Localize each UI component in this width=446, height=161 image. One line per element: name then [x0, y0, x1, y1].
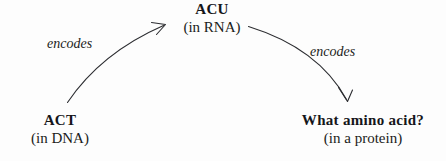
edge-label-acu-to-protein: encodes: [310, 44, 355, 60]
arrow-acu-to-protein-head: [339, 88, 353, 102]
node-act-subtitle: (in DNA): [0, 131, 131, 146]
node-protein-title: What amino acid?: [281, 113, 445, 128]
arrow-acu-to-protein: [249, 27, 353, 102]
arrow-acu-to-protein-curve: [249, 27, 347, 100]
node-acu-subtitle: (in RNA): [141, 20, 283, 35]
node-act: ACT (in DNA): [0, 113, 131, 146]
node-protein-subtitle: (in a protein): [281, 131, 445, 146]
node-acu-title: ACU: [141, 2, 283, 17]
node-protein: What amino acid? (in a protein): [281, 113, 445, 146]
codon-flow-diagram: ACU (in RNA) ACT (in DNA) What amino aci…: [0, 0, 446, 161]
node-acu: ACU (in RNA): [141, 2, 283, 35]
node-act-title: ACT: [0, 113, 131, 128]
edge-label-act-to-acu: encodes: [47, 36, 92, 52]
